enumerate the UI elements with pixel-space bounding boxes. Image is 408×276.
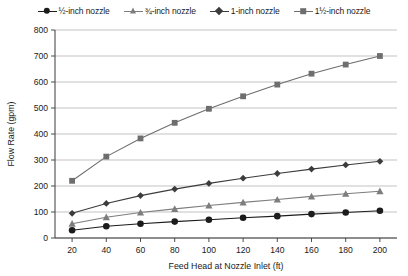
data-point — [377, 53, 383, 59]
x-tick-label: 140 — [270, 245, 285, 255]
y-tick-label: 800 — [34, 25, 49, 35]
data-point — [377, 158, 384, 165]
series-line — [72, 56, 380, 181]
x-axis-title: Feed Head at Nozzle Inlet (ft) — [169, 261, 284, 271]
data-point — [240, 93, 246, 99]
y-tick-label: 700 — [34, 51, 49, 61]
series-1 — [69, 207, 383, 233]
flow-rate-chart: ½-inch nozzle¾-inch nozzle1-inch nozzle1… — [0, 0, 408, 276]
data-point — [377, 207, 384, 214]
series-3 — [69, 158, 384, 217]
y-tick-label: 0 — [43, 233, 48, 243]
data-series — [69, 53, 384, 233]
data-point — [308, 211, 315, 218]
x-tick-label: 60 — [136, 245, 146, 255]
data-point — [342, 162, 349, 169]
data-point — [309, 71, 315, 77]
x-tick-label: 200 — [373, 245, 388, 255]
x-tick-label: 180 — [339, 245, 354, 255]
y-tick-label: 200 — [34, 181, 49, 191]
data-point — [206, 106, 212, 112]
y-axis-title: Flow Rate (gpm) — [6, 101, 16, 166]
data-point — [274, 82, 280, 88]
x-axis-ticks: 20406080100120140160180200 — [67, 238, 387, 255]
data-point — [137, 220, 144, 227]
data-point — [274, 170, 281, 177]
x-tick-label: 160 — [304, 245, 319, 255]
plot-svg: 0100200300400500600700800 20406080100120… — [0, 0, 408, 276]
data-point — [343, 62, 349, 68]
x-tick-label: 20 — [67, 245, 77, 255]
series-4 — [69, 53, 383, 184]
x-tick-label: 120 — [236, 245, 251, 255]
data-point — [69, 210, 76, 217]
x-tick-label: 100 — [202, 245, 217, 255]
data-point — [206, 217, 213, 224]
plot-area: 0100200300400500600700800 20406080100120… — [0, 0, 408, 276]
y-tick-label: 400 — [34, 129, 49, 139]
data-point — [172, 120, 178, 126]
y-tick-label: 600 — [34, 77, 49, 87]
data-point — [69, 178, 75, 184]
data-point — [69, 227, 76, 234]
data-point — [137, 192, 144, 199]
data-point — [103, 200, 110, 207]
data-point — [171, 186, 178, 193]
data-point — [240, 175, 247, 182]
data-point — [138, 136, 144, 142]
y-tick-label: 500 — [34, 103, 49, 113]
y-axis-ticks: 0100200300400500600700800 — [34, 25, 55, 243]
data-point — [342, 209, 349, 216]
data-point — [103, 154, 109, 160]
data-point — [171, 218, 178, 225]
data-point — [308, 166, 315, 173]
x-tick-label: 40 — [102, 245, 112, 255]
series-2 — [69, 188, 384, 227]
y-tick-label: 300 — [34, 155, 49, 165]
data-point — [274, 213, 281, 220]
data-point — [240, 214, 247, 221]
x-tick-label: 80 — [170, 245, 180, 255]
series-line — [72, 211, 380, 231]
data-point — [103, 223, 110, 230]
y-tick-label: 100 — [34, 207, 49, 217]
series-line — [72, 161, 380, 213]
